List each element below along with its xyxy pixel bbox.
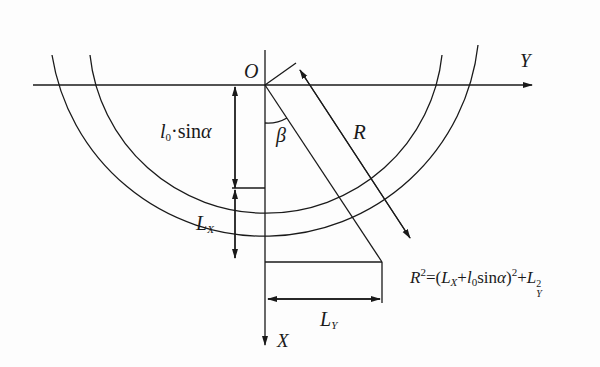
l0-sin-alpha-label: l0·sinα [160,120,212,143]
formula: R2=(LX+l0sinα)2+L2Y [410,266,542,299]
beta-label: β [276,124,286,147]
origin-label: O [244,60,258,83]
inner-arc [90,55,442,213]
diagram-lines [0,0,600,367]
ly-label: LY [320,308,337,331]
x-axis-label: X [277,330,289,352]
beta-arc [265,118,287,123]
diagram-canvas: O Y X β R l0·sinα LX LY R2=(LX+l0sinα)2+… [0,0,600,367]
radius-label: R [353,120,366,145]
y-axis-label: Y [520,50,531,72]
lx-label: LX [196,212,214,235]
